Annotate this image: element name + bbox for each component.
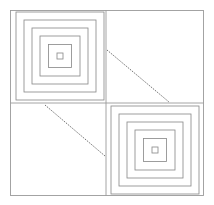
figure-canvas [0, 0, 214, 205]
geometric-figure [0, 0, 214, 205]
